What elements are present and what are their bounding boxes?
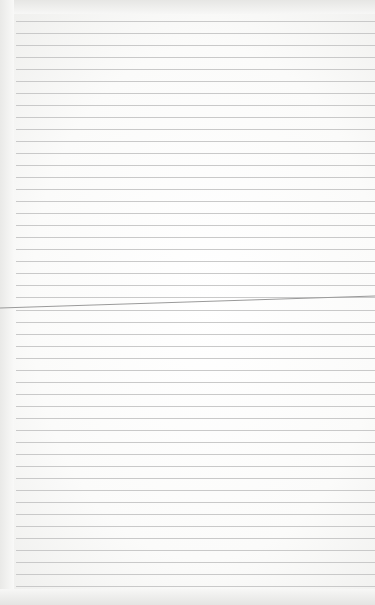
lined-paper — [0, 0, 375, 605]
crease-line — [0, 296, 375, 308]
fold-crease — [0, 0, 375, 605]
